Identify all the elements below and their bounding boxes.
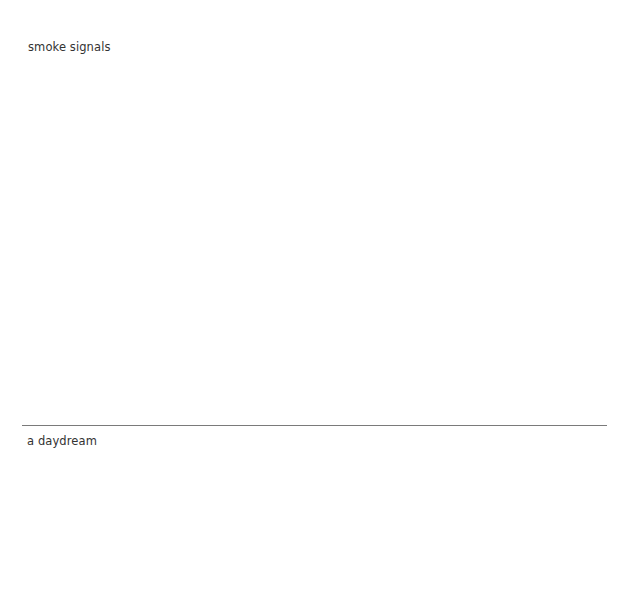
section-divider — [22, 425, 607, 426]
section-title-smoke-signals: smoke signals — [28, 40, 111, 54]
section-title-a-daydream: a daydream — [27, 434, 97, 448]
